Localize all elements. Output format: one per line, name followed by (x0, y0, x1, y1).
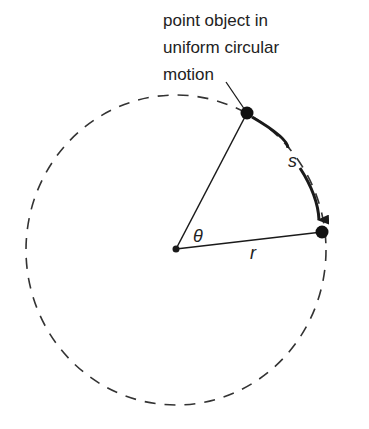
caption-line-1: point object in (163, 11, 268, 30)
angle-label: θ (193, 226, 203, 246)
center-point (173, 246, 180, 253)
object-position-start (241, 107, 254, 120)
radius-label: r (250, 243, 257, 263)
caption-line-2: uniform circular (163, 38, 280, 57)
arc-length-label: s (288, 151, 297, 171)
radius-line-1 (176, 113, 247, 249)
arc-length-arrow (252, 117, 319, 220)
circular-motion-diagram: point object in uniform circular motion … (0, 0, 369, 429)
object-position-end (316, 226, 329, 239)
caption-line-3: motion (163, 65, 214, 84)
